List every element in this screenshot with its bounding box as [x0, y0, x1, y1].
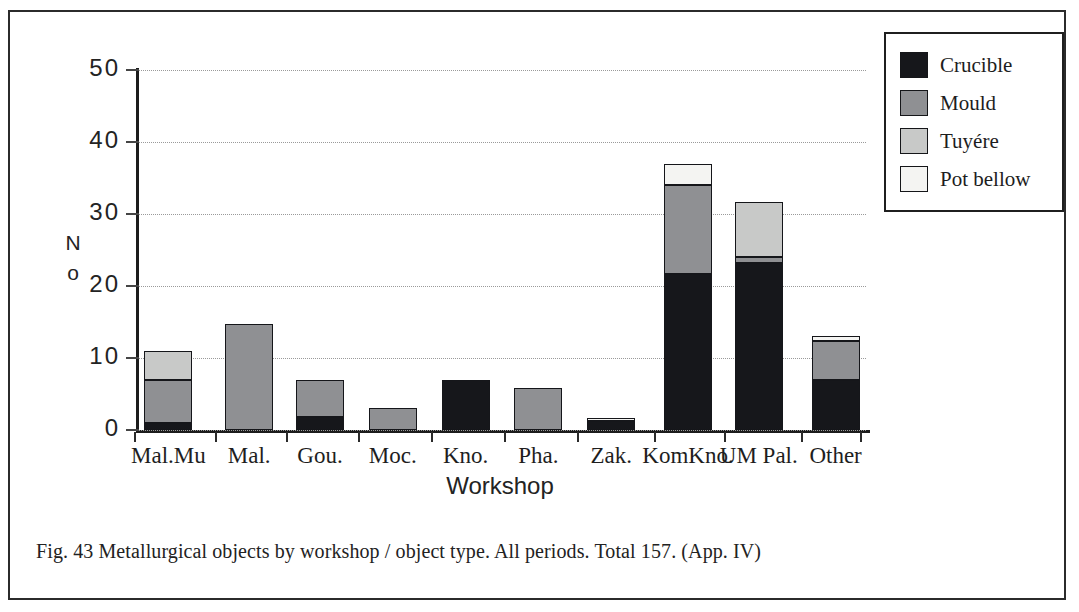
legend-label-tuyere: Tuyére — [940, 129, 999, 154]
chart-figure: N o 01020304050 Mal.MuMal.Gou.Moc.Kno.Ph… — [0, 0, 1079, 612]
bar-segment-mould — [369, 408, 417, 430]
legend: CrucibleMouldTuyérePot bellow — [884, 32, 1064, 212]
x-tick-mark-6 — [577, 432, 579, 442]
bar-segment-crucible — [144, 423, 192, 430]
x-tick-mark-8 — [724, 432, 726, 442]
bar-segment-mould — [514, 388, 562, 430]
bar-segment-mould — [812, 341, 860, 379]
bar-segment-mould — [296, 380, 344, 417]
y-axis-title-line1: N — [65, 231, 80, 254]
bar-segment-tuyere — [735, 202, 783, 257]
x-tick-mark-2 — [286, 432, 288, 442]
bar-mal — [225, 70, 273, 430]
bar-segment-crucible — [442, 380, 490, 430]
legend-swatch-tuyere — [900, 128, 928, 154]
legend-item-potbellow: Pot bellow — [900, 160, 1052, 198]
bar-pha — [514, 70, 562, 430]
bar-komkno — [664, 70, 712, 430]
legend-swatch-potbellow — [900, 166, 928, 192]
x-tick-mark-0 — [134, 432, 136, 442]
bar-segment-mould — [664, 185, 712, 274]
x-tick-mark-1 — [215, 432, 217, 442]
legend-label-potbellow: Pot bellow — [940, 167, 1030, 192]
x-tick-mark-4 — [431, 432, 433, 442]
legend-label-mould: Mould — [940, 91, 996, 116]
y-tick-label-20: 20 — [66, 270, 120, 298]
gridline-0 — [138, 430, 866, 432]
bar-moc — [369, 70, 417, 430]
legend-label-crucible: Crucible — [940, 53, 1012, 78]
bar-segment-crucible — [735, 263, 783, 430]
y-tick-label-0: 0 — [66, 414, 120, 442]
bar-other — [812, 70, 860, 430]
legend-swatch-crucible — [900, 52, 928, 78]
bar-segment-mould — [225, 324, 273, 430]
bar-segment-crucible — [664, 274, 712, 430]
bar-malmu — [144, 70, 192, 430]
x-tick-mark-3 — [358, 432, 360, 442]
legend-item-crucible: Crucible — [900, 46, 1052, 84]
bar-segment-mould — [144, 380, 192, 423]
bar-umpal — [735, 70, 783, 430]
plot-area — [138, 70, 866, 430]
x-tick-mark-7 — [654, 432, 656, 442]
bar-kno — [442, 70, 490, 430]
bar-segment-crucible — [296, 417, 344, 430]
x-tick-mark-9 — [801, 432, 803, 442]
x-tick-mark-5 — [504, 432, 506, 442]
y-tick-label-40: 40 — [66, 126, 120, 154]
x-axis-title: Workshop — [0, 472, 1000, 500]
bar-zak — [587, 70, 635, 430]
bar-gou — [296, 70, 344, 430]
y-tick-label-10: 10 — [66, 342, 120, 370]
bar-segment-crucible — [812, 380, 860, 430]
y-tick-label-50: 50 — [66, 54, 120, 82]
legend-item-tuyere: Tuyére — [900, 122, 1052, 160]
figure-caption: Fig. 43 Metallurgical objects by worksho… — [36, 540, 1036, 563]
y-tick-label-30: 30 — [66, 198, 120, 226]
legend-item-mould: Mould — [900, 84, 1052, 122]
bar-segment-mould — [735, 257, 783, 263]
bar-segment-potbellow — [812, 336, 860, 341]
bar-segment-tuyere — [144, 351, 192, 380]
legend-swatch-mould — [900, 90, 928, 116]
x-tick-label-other: Other — [776, 443, 896, 469]
x-tick-mark-end — [860, 432, 862, 442]
bar-segment-crucible — [587, 421, 635, 430]
bar-segment-potbellow — [664, 164, 712, 186]
bar-segment-potbellow — [587, 418, 635, 421]
